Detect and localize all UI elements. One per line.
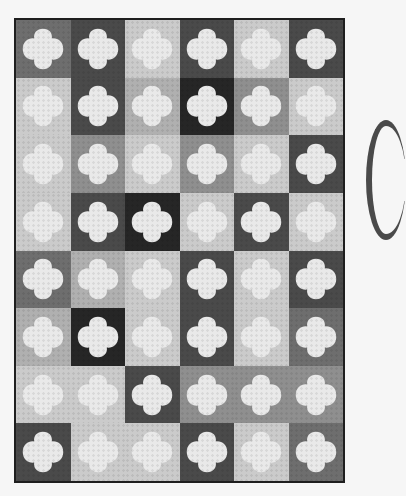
quilt-block-r3-c0 (16, 193, 71, 251)
quilt-block-r5-c0 (16, 308, 71, 366)
quatrefoil-applique (76, 27, 120, 71)
quilt-block-r0-c3 (180, 20, 235, 78)
quilt-block-r7-c3 (180, 423, 235, 481)
quatrefoil-applique (294, 373, 338, 417)
quatrefoil-applique (130, 430, 174, 474)
quatrefoil-applique (294, 257, 338, 301)
quilt-block-r5-c4 (234, 308, 289, 366)
quatrefoil-applique (185, 430, 229, 474)
quatrefoil-applique (294, 430, 338, 474)
quilt-block-r2-c1 (71, 135, 126, 193)
quilt-block-r1-c5 (289, 78, 344, 136)
quatrefoil-applique (239, 430, 283, 474)
quilt-block-r7-c4 (234, 423, 289, 481)
quilt-block-r4-c1 (71, 251, 126, 309)
quatrefoil-applique (76, 142, 120, 186)
quilt-block-r5-c5 (289, 308, 344, 366)
quilt-block-r4-c3 (180, 251, 235, 309)
quatrefoil-applique (294, 142, 338, 186)
quilt-block-r6-c1 (71, 366, 126, 424)
quilt-block-r2-c0 (16, 135, 71, 193)
quilt-block-r0-c1 (71, 20, 126, 78)
quilt-block-r1-c4 (234, 78, 289, 136)
quilt-block-r3-c4 (234, 193, 289, 251)
quatrefoil-applique (130, 257, 174, 301)
quatrefoil-applique (76, 200, 120, 244)
quilt-block-r3-c3 (180, 193, 235, 251)
quatrefoil-applique (294, 200, 338, 244)
quilt-block-r7-c0 (16, 423, 71, 481)
quilt-block-r5-c1 (71, 308, 126, 366)
quatrefoil-applique (130, 200, 174, 244)
quatrefoil-applique (185, 84, 229, 128)
quilt-block-r2-c3 (180, 135, 235, 193)
quatrefoil-applique (294, 315, 338, 359)
quilt-block-r4-c4 (234, 251, 289, 309)
quilt-block-r7-c5 (289, 423, 344, 481)
quatrefoil-applique (239, 27, 283, 71)
quilt-block-r6-c4 (234, 366, 289, 424)
quatrefoil-applique (76, 84, 120, 128)
quilt-block-r6-c5 (289, 366, 344, 424)
quatrefoil-applique (185, 27, 229, 71)
quilt-block-r1-c3 (180, 78, 235, 136)
quilt-block-r4-c0 (16, 251, 71, 309)
quilt-block-r2-c5 (289, 135, 344, 193)
quatrefoil-applique (130, 142, 174, 186)
quilt-block-r2-c2 (125, 135, 180, 193)
partial-object-arc (366, 120, 406, 240)
quatrefoil-applique (294, 27, 338, 71)
quatrefoil-applique (239, 84, 283, 128)
quatrefoil-applique (185, 200, 229, 244)
quilt-block-r6-c0 (16, 366, 71, 424)
quilt-block-r1-c1 (71, 78, 126, 136)
quatrefoil-applique (130, 84, 174, 128)
quilt-block-r0-c4 (234, 20, 289, 78)
quatrefoil-applique (239, 257, 283, 301)
quatrefoil-applique (21, 373, 65, 417)
quatrefoil-applique (239, 200, 283, 244)
quilt-block-r3-c2 (125, 193, 180, 251)
quatrefoil-applique (239, 315, 283, 359)
quilt-block-r5-c2 (125, 308, 180, 366)
quatrefoil-applique (294, 84, 338, 128)
quilt-block-r3-c1 (71, 193, 126, 251)
quilt-block-r2-c4 (234, 135, 289, 193)
quatrefoil-applique (21, 142, 65, 186)
quatrefoil-applique (21, 315, 65, 359)
quilt-block-r6-c3 (180, 366, 235, 424)
quatrefoil-applique (76, 257, 120, 301)
quatrefoil-applique (76, 315, 120, 359)
quatrefoil-applique (76, 373, 120, 417)
quilt-block-r6-c2 (125, 366, 180, 424)
quatrefoil-applique (21, 200, 65, 244)
quatrefoil-applique (130, 373, 174, 417)
quilt-block-r4-c5 (289, 251, 344, 309)
quilt-block-r0-c0 (16, 20, 71, 78)
quatrefoil-applique (239, 142, 283, 186)
quilt-block-r1-c2 (125, 78, 180, 136)
quilt-block-r7-c2 (125, 423, 180, 481)
quilt-block-r5-c3 (180, 308, 235, 366)
quatrefoil-applique (185, 142, 229, 186)
quilt-block-r3-c5 (289, 193, 344, 251)
quatrefoil-applique (185, 315, 229, 359)
quatrefoil-applique (21, 27, 65, 71)
quilt-block-r7-c1 (71, 423, 126, 481)
quatrefoil-applique (21, 430, 65, 474)
quilt-block-r0-c2 (125, 20, 180, 78)
quatrefoil-applique (130, 27, 174, 71)
quilt-block-r0-c5 (289, 20, 344, 78)
quatrefoil-applique (76, 430, 120, 474)
quatrefoil-applique (21, 257, 65, 301)
quatrefoil-applique (21, 84, 65, 128)
quilt (14, 18, 345, 483)
quatrefoil-applique (185, 373, 229, 417)
quatrefoil-applique (239, 373, 283, 417)
quatrefoil-applique (130, 315, 174, 359)
quilt-block-r1-c0 (16, 78, 71, 136)
quatrefoil-applique (185, 257, 229, 301)
quilt-block-r4-c2 (125, 251, 180, 309)
